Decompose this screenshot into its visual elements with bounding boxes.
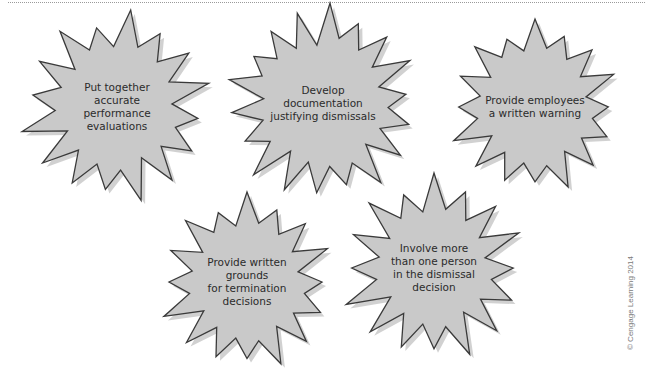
burst-label: Provide written grounds for termination … <box>147 182 347 372</box>
burst-multiple-people: Involve more than one person in the dism… <box>329 163 539 372</box>
copyright-credit: © Cengage Learning 2014 <box>626 256 635 350</box>
burst-label: Involve more than one person in the dism… <box>329 163 539 372</box>
burst-written-grounds: Provide written grounds for termination … <box>147 182 347 372</box>
